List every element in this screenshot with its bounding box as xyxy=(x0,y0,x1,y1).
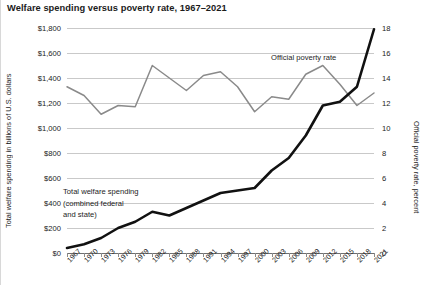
y-tick-label-left: $1,400 xyxy=(38,74,61,83)
y-tick-label-left: $1,600 xyxy=(38,49,61,58)
y-tick-label-right: 2 xyxy=(382,224,386,233)
y-tick-label-left: $400 xyxy=(44,199,61,208)
y-tick-label-left: $1,200 xyxy=(38,99,61,108)
welfare-spending-annotation: Total welfare spending(combined federala… xyxy=(63,186,139,221)
y-tick-label-left: $800 xyxy=(44,149,61,158)
x-tick-label: 2021 xyxy=(372,247,390,265)
poverty-rate-annotation: Official poverty rate xyxy=(271,52,336,64)
line-official-poverty-rate xyxy=(67,66,374,115)
y-axis-title-right: Official poverty rate, percent xyxy=(410,92,422,242)
y-tick-label-right: 6 xyxy=(382,174,386,183)
y-tick-label-right: 4 xyxy=(382,199,386,208)
annotation-line: Total welfare spending xyxy=(63,186,139,198)
y-tick-label-right: 18 xyxy=(382,24,390,33)
y-tick-label-left: $600 xyxy=(44,174,61,183)
y-tick-label-right: 8 xyxy=(382,149,386,158)
y-tick-label-right: 14 xyxy=(382,74,390,83)
y-axis-title-left: Total welfare spending in billions of U.… xyxy=(3,48,15,253)
chart-page: Welfare spending versus poverty rate, 19… xyxy=(0,0,423,285)
y-tick-label-right: 16 xyxy=(382,49,390,58)
y-tick-label-left: $1,800 xyxy=(38,24,61,33)
y-tick-label-left: $0 xyxy=(53,249,61,258)
y-tick-label-right: 10 xyxy=(382,124,390,133)
y-tick-label-left: $200 xyxy=(44,224,61,233)
page-title: Welfare spending versus poverty rate, 19… xyxy=(7,3,227,13)
annotation-line: (combined federal xyxy=(63,198,139,210)
annotation-line: and state) xyxy=(63,209,139,221)
y-tick-label-right: 12 xyxy=(382,99,390,108)
y-tick-label-left: $1,000 xyxy=(38,124,61,133)
